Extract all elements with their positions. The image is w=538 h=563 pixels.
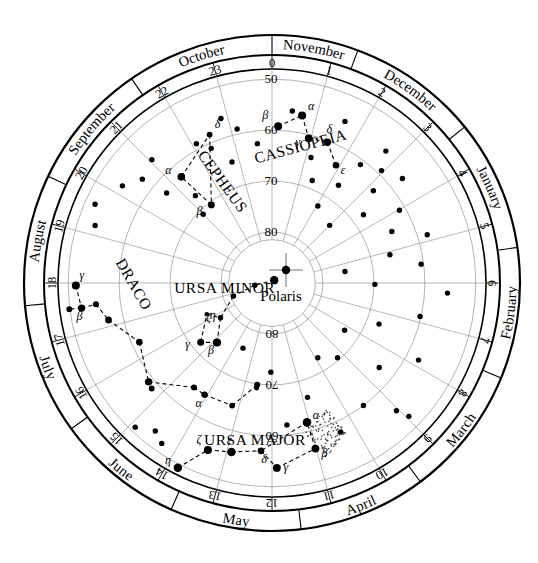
constellation-star (333, 162, 340, 169)
field-star (425, 232, 430, 237)
greek-star-label: α (196, 396, 203, 410)
constellation-star (207, 132, 213, 138)
constellation-star (208, 201, 215, 208)
polaris-star (282, 266, 290, 274)
greek-star-label: η (165, 453, 171, 467)
constellation-star (303, 418, 312, 427)
stipple-dot (334, 443, 335, 444)
stipple-dot (321, 435, 322, 436)
stipple-dot (329, 412, 330, 413)
field-star (418, 261, 423, 266)
stipple-dot (311, 426, 312, 427)
field-star (92, 223, 97, 228)
constellation-star (149, 386, 155, 392)
stipple-dot (328, 431, 329, 432)
constellation-star (227, 448, 236, 457)
field-star (149, 157, 154, 162)
field-star (327, 223, 332, 228)
constellation-star (218, 315, 223, 320)
stipple-dot (328, 448, 329, 449)
stipple-dot (329, 452, 330, 453)
greek-star-label: γ (283, 460, 288, 474)
field-star (240, 345, 245, 350)
greek-star-label: δ (215, 117, 221, 131)
field-star (284, 422, 289, 427)
field-star (406, 414, 411, 419)
field-star (164, 190, 169, 195)
stipple-dot (330, 435, 331, 436)
stipple-dot (328, 421, 329, 422)
constellation-star (312, 445, 320, 453)
hour-label: 12 (266, 496, 279, 510)
stipple-dot (330, 423, 331, 424)
field-star (268, 369, 273, 374)
stipple-dot (337, 425, 338, 426)
stipple-dot (325, 410, 326, 411)
field-star (376, 321, 381, 326)
stipple-dot (329, 415, 330, 416)
declination-label: 60 (265, 122, 278, 137)
greek-star-label: α (165, 163, 172, 177)
stipple-dot (335, 427, 336, 428)
declination-label: 70 (265, 173, 278, 188)
field-star (445, 290, 450, 295)
constellation-star (229, 403, 235, 409)
greek-star-label: β (195, 204, 202, 218)
stipple-dot (319, 424, 320, 425)
field-star (338, 429, 343, 434)
field-star (159, 441, 164, 446)
constellation-star (197, 339, 204, 346)
field-star (315, 203, 320, 208)
hour-label: 0 (269, 56, 275, 70)
stipple-dot (336, 429, 337, 430)
field-star (255, 141, 260, 146)
constellation-star (177, 173, 185, 181)
stipple-dot (340, 426, 341, 427)
stipple-dot (322, 414, 323, 415)
constellation-name: URSA MAJOR (204, 431, 306, 448)
constellation-star (202, 392, 208, 398)
stipple-dot (326, 439, 327, 440)
stipple-dot (322, 430, 323, 431)
stipple-dot (333, 424, 334, 425)
stipple-dot (317, 438, 318, 439)
field-star (383, 148, 388, 153)
declination-label: 80 (266, 327, 279, 342)
constellation-star (254, 385, 259, 390)
stipple-dot (331, 427, 332, 428)
field-star (342, 269, 347, 274)
stipple-dot (307, 435, 308, 436)
constellation-star (93, 301, 99, 307)
declination-label: 60 (266, 429, 279, 444)
stipple-dot (334, 417, 335, 418)
field-star (361, 403, 366, 408)
stipple-dot (333, 430, 334, 431)
field-star (342, 119, 347, 124)
constellation-star (105, 317, 112, 324)
stipple-dot (335, 441, 336, 442)
stipple-dot (333, 446, 334, 447)
stipple-dot (335, 436, 336, 437)
field-star (389, 229, 394, 234)
stipple-dot (323, 418, 324, 419)
stipple-dot (314, 441, 315, 442)
stipple-dot (337, 428, 338, 429)
stipple-dot (316, 430, 317, 431)
stipple-dot (330, 444, 331, 445)
stipple-dot (321, 416, 322, 417)
field-star (361, 212, 366, 217)
field-star (310, 178, 315, 183)
field-star (417, 314, 422, 319)
hour-label: 6 (485, 280, 499, 286)
declination-label: 50 (265, 71, 278, 86)
field-star (335, 355, 340, 360)
field-star (229, 159, 234, 164)
stipple-dot (331, 437, 332, 438)
field-star (416, 357, 421, 362)
stipple-dot (324, 421, 325, 422)
field-star (371, 188, 376, 193)
constellation-star (191, 384, 197, 390)
stipple-dot (324, 414, 325, 415)
stipple-dot (336, 440, 337, 441)
stipple-dot (327, 434, 328, 435)
